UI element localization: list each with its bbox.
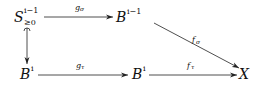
node-s-sup: i−1: [24, 6, 38, 15]
commutative-diagram: S i−1 ≥0 B i−1 B i B i X g σ g τ f: [0, 0, 265, 86]
node-b-left-sup: i: [31, 64, 34, 73]
label-g-tau-sub: τ: [81, 63, 85, 70]
node-b-mid-base: B: [131, 66, 142, 82]
node-x-base: X: [238, 66, 250, 82]
node-s-sub: ≥0: [24, 18, 36, 27]
node-b-top-sup: i−1: [127, 7, 141, 16]
label-g-sigma-sub: σ: [80, 5, 85, 12]
edge-bmid-to-x: f τ: [149, 61, 237, 75]
node-b-mid-sup: i: [143, 64, 146, 73]
arrow-f-sigma: [154, 23, 239, 68]
label-f-tau-sub: τ: [191, 63, 195, 70]
edge-bleft-to-bmid: g τ: [38, 61, 128, 75]
node-s-base: S: [14, 9, 24, 25]
label-f-sigma-sub: σ: [196, 38, 201, 45]
node-b-top: B i−1: [115, 7, 141, 25]
node-b-top-base: B: [115, 9, 126, 25]
node-b-left: B i: [19, 64, 34, 82]
node-x: X: [238, 66, 250, 82]
node-b-mid: B i: [131, 64, 146, 82]
edge-btop-to-x: f σ: [154, 23, 239, 68]
edge-s-to-btop: g σ: [44, 3, 113, 17]
edge-s-to-bleft: [24, 28, 30, 64]
node-b-left-base: B: [19, 66, 30, 82]
node-s-geq0: S i−1 ≥0: [14, 6, 38, 27]
